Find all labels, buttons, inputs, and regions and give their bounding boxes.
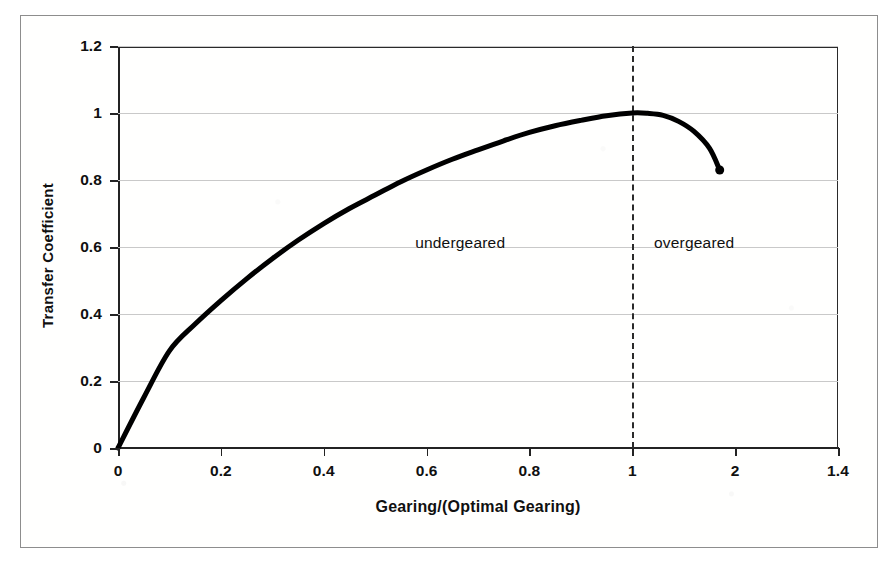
x-tick-label-7: 1.4 xyxy=(827,462,849,480)
y-tick-1 xyxy=(110,113,118,115)
x-tick-label-6: 2 xyxy=(731,462,740,480)
y-tick-label-0.6: 0.6 xyxy=(80,238,102,256)
y-tick-0.6 xyxy=(110,247,118,249)
y-tick-1.2 xyxy=(110,46,118,48)
x-tick-1.4 xyxy=(838,448,840,456)
plot-area: undergeared overgeared xyxy=(118,46,838,448)
y-tick-0.4 xyxy=(110,314,118,316)
y-tick-0.8 xyxy=(110,180,118,182)
x-tick-label-3: 0.6 xyxy=(416,462,438,480)
x-tick-label-5: 1 xyxy=(628,462,637,480)
x-tick-label-4: 0.8 xyxy=(518,462,540,480)
x-tick-0.2 xyxy=(221,448,223,456)
curve-endpoint-marker xyxy=(715,165,724,174)
x-tick-0 xyxy=(118,448,120,456)
x-tick-0.4 xyxy=(324,448,326,456)
x-tick-0.6 xyxy=(427,448,429,456)
x-tick-label-1: 0.2 xyxy=(210,462,232,480)
x-tick-1 xyxy=(632,448,634,456)
y-tick-label-0.8: 0.8 xyxy=(80,171,102,189)
x-tick-label-2: 0.4 xyxy=(313,462,335,480)
x-tick-label-0: 0 xyxy=(114,462,123,480)
y-tick-0.2 xyxy=(110,381,118,383)
y-tick-label-0.2: 0.2 xyxy=(80,372,102,390)
x-tick-0.8 xyxy=(529,448,531,456)
x-axis-title: Gearing/(Optimal Gearing) xyxy=(118,498,838,516)
chart-canvas: Transfer Coefficient undergeared overgea… xyxy=(0,0,894,569)
y-tick-0 xyxy=(110,448,118,450)
y-tick-label-1.2: 1.2 xyxy=(80,37,102,55)
y-tick-label-1: 1 xyxy=(93,104,102,122)
x-tick-1.2 xyxy=(735,448,737,456)
y-tick-label-0.4: 0.4 xyxy=(80,305,102,323)
transfer-coefficient-curve xyxy=(118,46,838,448)
y-tick-label-0: 0 xyxy=(93,439,102,457)
y-axis-title: Transfer Coefficient xyxy=(39,146,56,366)
